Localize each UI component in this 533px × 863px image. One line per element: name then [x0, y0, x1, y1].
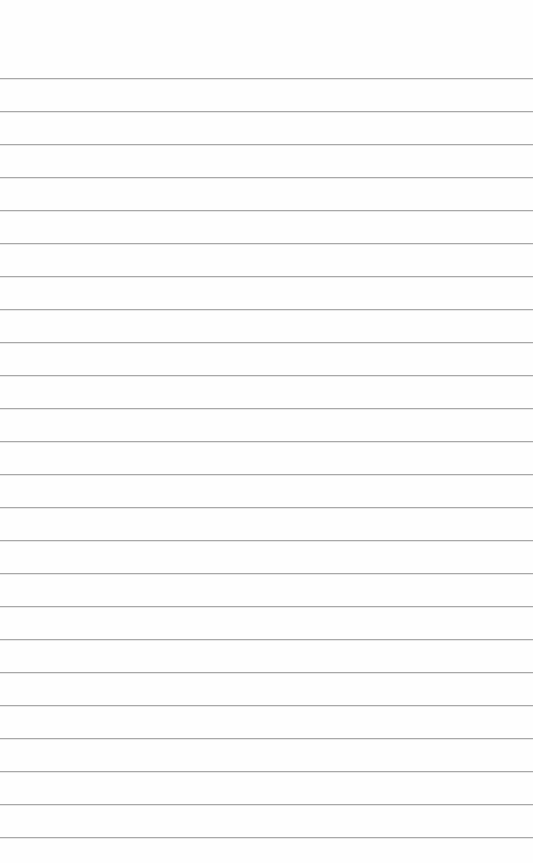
- ruled-line: [0, 804, 533, 805]
- ruled-line: [0, 144, 533, 145]
- ruled-line: [0, 672, 533, 673]
- ruled-line: [0, 210, 533, 211]
- ruled-line: [0, 606, 533, 607]
- ruled-line: [0, 408, 533, 409]
- ruled-line: [0, 837, 533, 838]
- ruled-line: [0, 276, 533, 277]
- ruled-line: [0, 738, 533, 739]
- ruled-line: [0, 243, 533, 244]
- ruled-line: [0, 309, 533, 310]
- ruled-line: [0, 705, 533, 706]
- ruled-line: [0, 342, 533, 343]
- ruled-paper-sheet: [0, 0, 533, 863]
- ruled-line: [0, 771, 533, 772]
- ruled-line: [0, 474, 533, 475]
- ruled-line: [0, 639, 533, 640]
- ruled-line: [0, 375, 533, 376]
- ruled-line: [0, 111, 533, 112]
- ruled-line: [0, 441, 533, 442]
- ruled-line: [0, 507, 533, 508]
- ruled-line: [0, 177, 533, 178]
- ruled-line: [0, 540, 533, 541]
- ruled-line: [0, 573, 533, 574]
- ruled-line: [0, 78, 533, 79]
